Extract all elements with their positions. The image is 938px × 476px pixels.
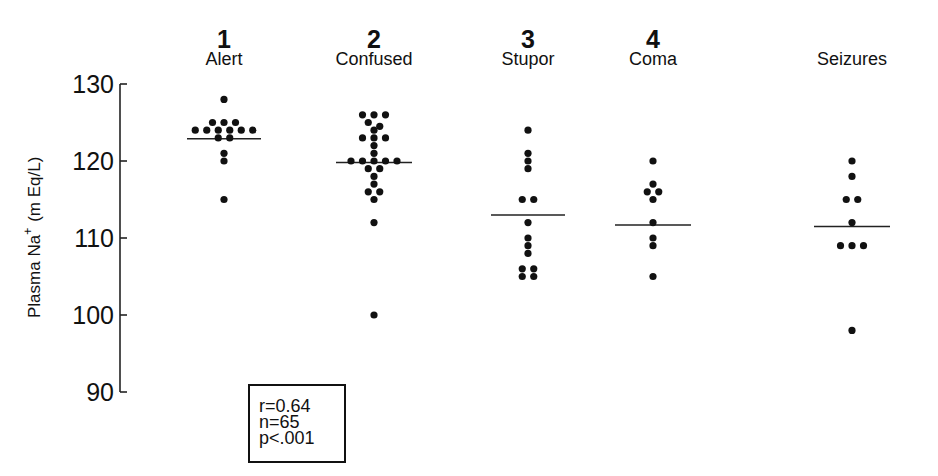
- data-point: [649, 242, 656, 249]
- data-point: [524, 165, 531, 172]
- data-point: [220, 96, 227, 103]
- data-point: [649, 219, 656, 226]
- data-point: [530, 265, 537, 272]
- data-point: [249, 127, 256, 134]
- y-tick-label: 90: [86, 378, 114, 406]
- stat-p-value: p<.001: [259, 430, 344, 446]
- data-point: [370, 157, 377, 164]
- y-tick-label: 110: [74, 224, 114, 252]
- data-point: [370, 311, 377, 318]
- y-tick-label: 120: [72, 147, 114, 175]
- category-label: Seizures: [817, 49, 887, 69]
- series-alert: [187, 96, 261, 203]
- data-point: [649, 196, 656, 203]
- data-point: [192, 127, 199, 134]
- data-point: [370, 111, 377, 118]
- series-confused: [336, 111, 412, 318]
- y-tick-label: 100: [72, 301, 114, 329]
- data-point: [524, 234, 531, 241]
- data-point: [365, 165, 372, 172]
- data-point: [649, 273, 656, 280]
- plot-area: [187, 96, 890, 334]
- series-stupor: [491, 127, 565, 281]
- data-point: [848, 327, 855, 334]
- data-point: [524, 219, 531, 226]
- category-label: Stupor: [501, 49, 554, 69]
- y-axis: 13012011010090: [72, 70, 127, 406]
- data-point: [854, 196, 861, 203]
- data-point: [220, 157, 227, 164]
- y-axis-label: Plasma Na+(m Eq/L): [21, 157, 44, 318]
- data-point: [382, 157, 389, 164]
- data-point: [848, 157, 855, 164]
- data-point: [843, 196, 850, 203]
- data-point: [370, 142, 377, 149]
- data-point: [393, 157, 400, 164]
- data-point: [860, 242, 867, 249]
- data-point: [524, 250, 531, 257]
- data-point: [848, 242, 855, 249]
- category-label: Confused: [335, 49, 412, 69]
- data-point: [649, 181, 656, 188]
- data-point: [382, 111, 389, 118]
- data-point: [359, 157, 366, 164]
- data-point: [220, 150, 227, 157]
- data-point: [524, 127, 531, 134]
- data-point: [220, 196, 227, 203]
- data-point: [524, 150, 531, 157]
- data-point: [215, 134, 222, 141]
- data-point: [359, 111, 366, 118]
- data-point: [226, 134, 233, 141]
- data-point: [848, 173, 855, 180]
- data-point: [370, 173, 377, 180]
- y-tick-label: 130: [72, 70, 114, 98]
- data-point: [232, 119, 239, 126]
- y-axis-title: Plasma Na+(m Eq/L): [21, 157, 44, 318]
- data-point: [370, 181, 377, 188]
- data-point: [209, 119, 216, 126]
- category-label: Alert: [205, 49, 242, 69]
- data-point: [226, 127, 233, 134]
- data-point: [382, 134, 389, 141]
- data-point: [203, 127, 210, 134]
- strip-plot: 1Alert2Confused3Stupor4ComaSeizures 1301…: [0, 0, 938, 476]
- data-point: [530, 196, 537, 203]
- data-point: [370, 150, 377, 157]
- data-point: [376, 188, 383, 195]
- data-point: [370, 219, 377, 226]
- data-point: [524, 242, 531, 249]
- data-point: [519, 265, 526, 272]
- data-point: [215, 127, 222, 134]
- data-point: [370, 196, 377, 203]
- data-point: [238, 127, 245, 134]
- category-headers: 1Alert2Confused3Stupor4ComaSeizures: [205, 25, 887, 69]
- data-point: [365, 188, 372, 195]
- data-point: [519, 196, 526, 203]
- data-point: [848, 219, 855, 226]
- category-label: Coma: [629, 49, 678, 69]
- data-point: [370, 134, 377, 141]
- data-point: [530, 273, 537, 280]
- data-point: [370, 127, 377, 134]
- data-point: [649, 157, 656, 164]
- data-point: [519, 273, 526, 280]
- data-point: [644, 188, 651, 195]
- data-point: [524, 157, 531, 164]
- data-point: [220, 119, 227, 126]
- statistics-box: r=0.64 n=65 p<.001: [248, 384, 346, 463]
- data-point: [365, 119, 372, 126]
- data-point: [347, 157, 354, 164]
- series-coma: [615, 157, 691, 280]
- data-point: [376, 165, 383, 172]
- data-point: [837, 242, 844, 249]
- data-point: [359, 134, 366, 141]
- data-point: [649, 234, 656, 241]
- series-seizures: [814, 157, 890, 334]
- data-point: [655, 188, 662, 195]
